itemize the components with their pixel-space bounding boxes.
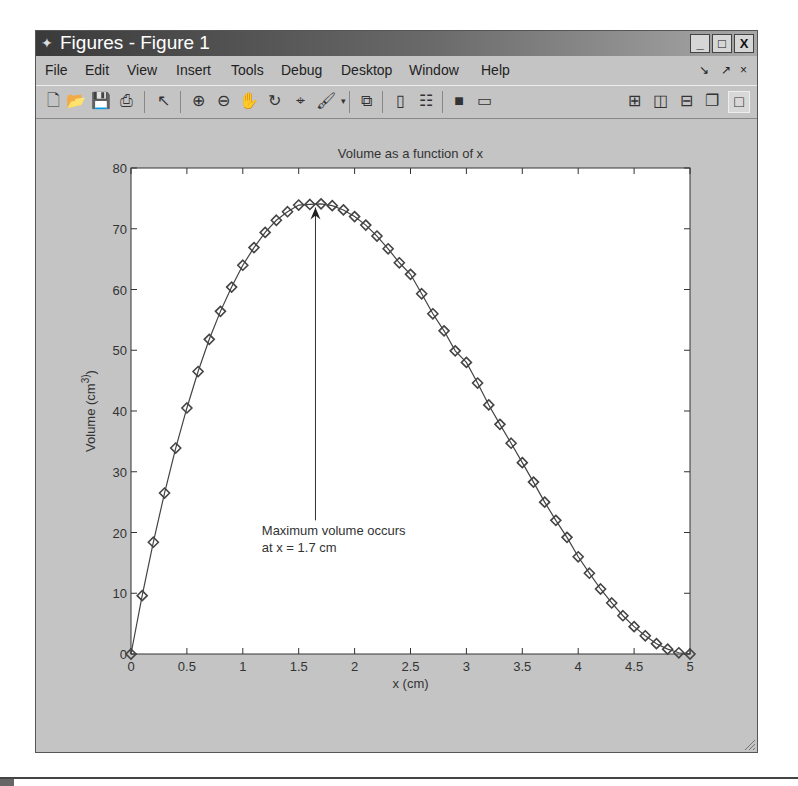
pan-hand-icon[interactable]: ✋ xyxy=(239,91,259,111)
x-tick-label: 1 xyxy=(239,659,246,674)
menu-insert[interactable]: Insert xyxy=(176,62,211,78)
x-tick-label: 4.5 xyxy=(625,659,643,674)
undock-icon[interactable]: ↗ xyxy=(721,63,731,77)
brush-dropdown-icon[interactable]: ▾ xyxy=(333,91,353,111)
y-tick-label: 20 xyxy=(113,526,127,541)
x-tick-label: 3.5 xyxy=(513,659,531,674)
link-plot-icon[interactable]: ⧉ xyxy=(356,91,376,111)
zoom-in-icon[interactable]: ⊕ xyxy=(188,91,208,111)
x-tick-label: 1.5 xyxy=(290,659,308,674)
y-tick-label: 70 xyxy=(113,222,127,237)
chart-title: Volume as a function of x xyxy=(338,146,484,161)
figure-canvas: 00.511.522.533.544.5501020304050607080Vo… xyxy=(36,119,757,752)
y-tick-label: 80 xyxy=(113,161,127,176)
chart: 00.511.522.533.544.5501020304050607080Vo… xyxy=(36,119,757,752)
annotation-text: Maximum volume occurs xyxy=(262,523,406,538)
x-tick-label: 2 xyxy=(351,659,358,674)
x-tick-label: 4 xyxy=(575,659,582,674)
y-tick-label: 10 xyxy=(113,586,127,601)
legend-icon[interactable]: ▭ xyxy=(474,91,494,111)
menu-debug[interactable]: Debug xyxy=(281,62,322,78)
x-tick-label: 0 xyxy=(127,659,134,674)
menu-edit[interactable]: Edit xyxy=(85,62,109,78)
y-tick-label: 60 xyxy=(113,283,127,298)
plot-area xyxy=(131,168,690,654)
data-cursor-icon[interactable]: ⌖ xyxy=(290,91,310,111)
annotation-text: at x = 1.7 cm xyxy=(262,540,337,555)
menu-bar: File Edit View Insert Tools Debug Deskto… xyxy=(36,58,757,82)
divider xyxy=(0,777,798,779)
matlab-logo-icon: ✦ xyxy=(41,35,57,51)
x-tick-label: 2.5 xyxy=(401,659,419,674)
title-bar[interactable]: ✦ Figures - Figure 1 _ □ X xyxy=(36,31,757,56)
show-plot-tools-icon[interactable]: ☷ xyxy=(416,91,436,111)
close-button[interactable]: X xyxy=(734,34,754,53)
minimize-button[interactable]: _ xyxy=(690,34,710,53)
figure-toolbar: 🗋 📂 💾 ⎙ ↖ ⊕ ⊖ ✋ ↻ ⌖ 🖌 ▾ ⧉ ▯ ☷ ■ ▭ ⊞ ◫ ⊟ … xyxy=(36,85,757,119)
page-corner-marker xyxy=(0,779,14,786)
x-tick-label: 3 xyxy=(463,659,470,674)
print-icon[interactable]: ⎙ xyxy=(116,91,136,111)
menu-help[interactable]: Help xyxy=(481,62,510,78)
x-axis-label: x (cm) xyxy=(392,676,428,691)
maximize-button[interactable]: □ xyxy=(712,34,732,53)
menu-file[interactable]: File xyxy=(45,62,68,78)
y-tick-label: 30 xyxy=(113,465,127,480)
hide-plot-tools-icon[interactable]: ▯ xyxy=(390,91,410,111)
tile-2x2-icon[interactable]: ⊞ xyxy=(624,91,644,111)
maximize-doc-icon[interactable]: □ xyxy=(728,91,750,113)
y-tick-label: 40 xyxy=(113,404,127,419)
resize-grip-icon[interactable] xyxy=(743,738,755,750)
close-doc-icon[interactable]: × xyxy=(740,63,747,77)
edit-plot-arrow-icon[interactable]: ↖ xyxy=(153,91,173,111)
menu-desktop[interactable]: Desktop xyxy=(341,62,392,78)
tile-columns-icon[interactable]: ◫ xyxy=(650,91,670,111)
x-tick-label: 0.5 xyxy=(178,659,196,674)
float-icon[interactable]: ❐ xyxy=(702,91,722,111)
colorbar-icon[interactable]: ■ xyxy=(449,91,469,111)
y-tick-label: 50 xyxy=(113,343,127,358)
y-axis-label: Volume (cm3)) xyxy=(80,370,98,452)
menu-view[interactable]: View xyxy=(127,62,157,78)
rotate-3d-icon[interactable]: ↻ xyxy=(264,91,284,111)
figure-window: ✦ Figures - Figure 1 _ □ X File Edit Vie… xyxy=(35,30,758,753)
window-title: Figures - Figure 1 xyxy=(60,32,210,54)
zoom-out-icon[interactable]: ⊖ xyxy=(213,91,233,111)
save-icon[interactable]: 💾 xyxy=(91,91,111,111)
menu-tools[interactable]: Tools xyxy=(231,62,264,78)
menu-window[interactable]: Window xyxy=(409,62,459,78)
tile-rows-icon[interactable]: ⊟ xyxy=(676,91,696,111)
open-file-icon[interactable]: 📂 xyxy=(66,91,86,111)
new-figure-icon[interactable]: 🗋 xyxy=(43,91,63,111)
dock-icon[interactable]: ↘ xyxy=(699,63,709,77)
x-tick-label: 5 xyxy=(686,659,693,674)
